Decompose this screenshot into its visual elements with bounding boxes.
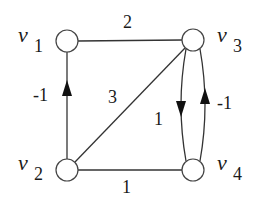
- edge-weight-v2-v1: -1: [33, 85, 48, 105]
- arrow-up-icon: [62, 80, 72, 96]
- edge-weight-v1-v3: 2: [123, 12, 132, 32]
- svg-text:v: v: [217, 150, 227, 175]
- node-v1: [56, 30, 78, 52]
- svg-text:1: 1: [34, 36, 43, 56]
- edge-weight-v4-v3: -1: [217, 93, 232, 113]
- node-label-v2: v 2: [18, 150, 43, 184]
- node-v2: [56, 159, 78, 181]
- node-label-v4: v 4: [217, 150, 242, 184]
- edge-weight-v3-v4: 1: [154, 109, 163, 129]
- svg-text:v: v: [217, 22, 227, 47]
- svg-text:2: 2: [34, 164, 43, 184]
- edge-v1-v3: [78, 40, 182, 41]
- node-label-v3: v 3: [217, 22, 242, 56]
- svg-text:v: v: [18, 22, 28, 47]
- svg-text:v: v: [18, 150, 28, 175]
- edge-weight-v2-v4: 1: [122, 177, 131, 197]
- node-v3: [182, 29, 204, 51]
- arrow-up-icon: [200, 88, 210, 104]
- edge-v2-v3: [75, 48, 185, 162]
- svg-text:4: 4: [233, 164, 242, 184]
- graph-diagram: 2 -1 3 1 1 -1 v 1 v 2 v 3 v 4: [0, 0, 261, 204]
- edge-weight-v2-v3: 3: [108, 87, 117, 107]
- node-v4: [182, 159, 204, 181]
- arrow-down-icon: [176, 101, 186, 117]
- edge-v4-v3: [200, 49, 205, 161]
- node-label-v1: v 1: [18, 22, 43, 56]
- svg-text:3: 3: [233, 36, 242, 56]
